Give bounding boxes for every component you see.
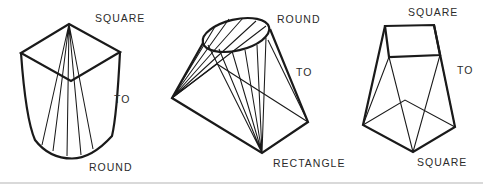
label-round-to-rectangle-mid: TO xyxy=(296,66,312,78)
line-art xyxy=(0,0,483,185)
triangulation-lines xyxy=(42,24,93,156)
figure-square-to-square xyxy=(363,25,455,152)
cone-and-rectangle-outline xyxy=(172,29,308,153)
label-square-to-square-mid: TO xyxy=(457,64,473,76)
page-edge-line xyxy=(0,182,483,184)
label-square-to-round-top: SQUARE xyxy=(95,12,145,24)
label-square-to-square-top: SQUARE xyxy=(408,6,458,18)
triangulation-lines-from-front-corner xyxy=(208,38,266,153)
label-round-to-rectangle-top: ROUND xyxy=(277,13,321,25)
triangulation-lines xyxy=(363,55,455,152)
transition-diagrams: SQUARE TO ROUND ROUND TO RECTANGLE SQUAR… xyxy=(0,0,483,185)
label-square-to-square-bottom: SQUARE xyxy=(417,156,467,168)
bottom-square-back-edges xyxy=(363,100,455,127)
label-square-to-round-bottom: ROUND xyxy=(89,161,133,173)
label-round-to-rectangle-bottom: RECTANGLE xyxy=(273,157,345,169)
label-square-to-round-mid: TO xyxy=(114,93,130,105)
figure-square-to-round xyxy=(21,24,120,159)
figure-round-to-rectangle xyxy=(172,12,308,153)
round-body-outline xyxy=(21,52,120,159)
square-top-outline xyxy=(385,25,440,57)
